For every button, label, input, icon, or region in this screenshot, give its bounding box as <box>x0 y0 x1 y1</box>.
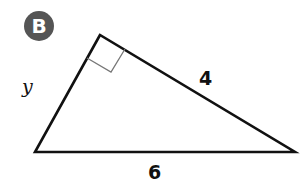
right-angle-marker <box>87 49 125 72</box>
right-triangle-drawing <box>0 0 308 183</box>
side-label-4: 4 <box>199 67 212 89</box>
triangle-outline <box>35 35 295 152</box>
triangle-figure: B y 4 6 <box>0 0 308 183</box>
side-label-y: y <box>22 75 33 97</box>
side-label-6: 6 <box>148 161 161 183</box>
